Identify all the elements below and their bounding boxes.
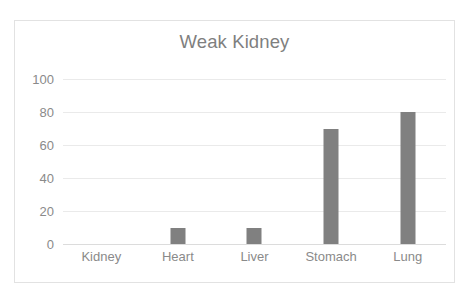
y-axis-tick-label: 0 [47,237,54,252]
chart-container: Weak Kidney 0 20 40 60 80 100 [14,20,455,283]
chart-title: Weak Kidney [15,31,454,53]
bar-liver[interactable] [247,228,262,245]
bar-heart[interactable] [170,228,185,245]
bar-series [63,79,446,244]
y-axis-tick-label: 40 [40,171,54,186]
x-axis-label-lung: Lung [369,249,446,264]
y-axis-tick-label: 60 [40,138,54,153]
bar-slot-liver [216,79,293,244]
bar-slot-heart [140,79,217,244]
bar-lung[interactable] [400,112,415,244]
plot-area: 0 20 40 60 80 100 [63,79,446,244]
bar-slot-kidney [63,79,140,244]
bar-slot-lung [369,79,446,244]
x-axis-label-liver: Liver [216,249,293,264]
y-axis-tick-label: 20 [40,204,54,219]
x-axis-labels: Kidney Heart Liver Stomach Lung [63,249,446,264]
x-axis-label-stomach: Stomach [293,249,370,264]
gridline-0: 0 [63,244,446,245]
x-axis-label-heart: Heart [140,249,217,264]
bar-slot-stomach [293,79,370,244]
x-axis-label-kidney: Kidney [63,249,140,264]
y-axis-tick-label: 80 [40,105,54,120]
y-axis-tick-label: 100 [32,72,54,87]
bar-stomach[interactable] [324,129,339,245]
